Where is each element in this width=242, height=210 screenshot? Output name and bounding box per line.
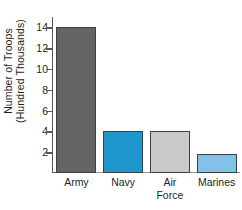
bar-navy <box>103 131 143 173</box>
bar-marines <box>197 154 237 173</box>
x-category-label: Navy <box>100 176 147 189</box>
bar-air-force <box>150 131 190 173</box>
x-category-label: AirForce <box>147 176 194 201</box>
y-tick-label: 2 <box>28 147 48 157</box>
y-tick-label: 8 <box>28 85 48 95</box>
y-tick-mark <box>46 111 53 112</box>
y-tick-label: 14 <box>28 22 48 32</box>
x-category-label-line: Navy <box>100 176 147 189</box>
y-axis-label-line-2: (Hundred Thousands) <box>14 19 26 123</box>
x-category-label-line: Army <box>53 176 100 189</box>
y-tick-mark <box>46 131 53 132</box>
plot-area <box>53 17 240 173</box>
x-category-label-line: Force <box>147 189 194 202</box>
x-category-label: Marines <box>193 176 240 189</box>
y-axis-label: Number of Troops (Hundred Thousands) <box>0 12 28 130</box>
y-tick-label: 12 <box>28 43 48 53</box>
x-category-label-line: Air <box>147 176 194 189</box>
y-tick-mark <box>46 152 53 153</box>
y-tick-mark <box>46 48 53 49</box>
y-axis-tick-labels: 2468101214 <box>28 10 48 173</box>
y-tick-label: 6 <box>28 106 48 116</box>
y-tick-mark <box>46 27 53 28</box>
y-axis-label-line-1: Number of Troops <box>2 28 14 114</box>
y-tick-mark <box>46 90 53 91</box>
y-tick-mark <box>46 69 53 70</box>
y-tick-label: 10 <box>28 64 48 74</box>
y-tick-label: 4 <box>28 126 48 136</box>
x-axis-category-labels: ArmyNavyAirForceMarines <box>53 176 240 208</box>
x-category-label: Army <box>53 176 100 189</box>
bar-army <box>56 27 96 173</box>
bar-chart: Number of Troops (Hundred Thousands) 246… <box>0 0 242 210</box>
x-category-label-line: Marines <box>193 176 240 189</box>
